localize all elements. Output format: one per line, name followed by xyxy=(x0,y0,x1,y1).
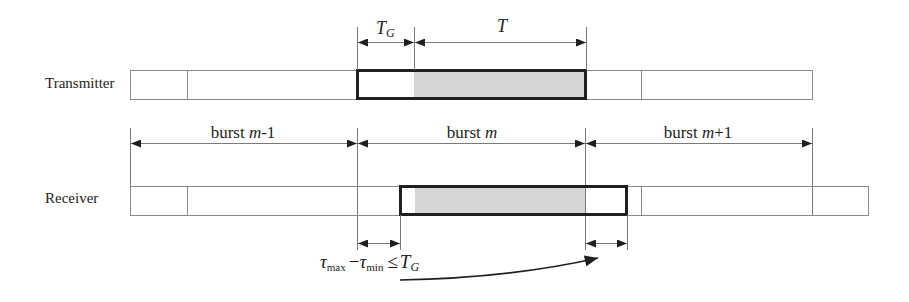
burst-m-label: burst m xyxy=(447,123,498,142)
transmitter-timeline xyxy=(131,70,813,100)
burst-timing-diagram: Transmitter Receiver TG T burst m-1 burs… xyxy=(0,0,909,302)
curved-arrow xyxy=(400,258,598,280)
delay-spread-condition: τmax−τmin≤TG xyxy=(320,251,419,274)
transmitter-useful-part xyxy=(414,71,586,99)
receiver-useful-part xyxy=(415,187,585,215)
symbol-period-label: T xyxy=(497,16,509,36)
burst-m-plus-1-label: burst m+1 xyxy=(664,123,733,142)
transmitter-label: Transmitter xyxy=(45,75,114,91)
guard-interval-label: TG xyxy=(376,18,395,40)
receiver-label: Receiver xyxy=(45,190,98,206)
burst-m-minus-1-label: burst m-1 xyxy=(211,123,276,142)
receiver-timeline xyxy=(131,186,869,216)
